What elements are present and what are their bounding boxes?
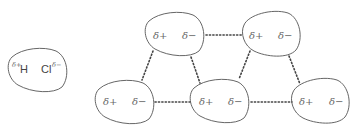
molecule-outline xyxy=(8,48,67,91)
molecule-m3: δ+ δ− xyxy=(95,80,154,123)
negative-pole: δ− xyxy=(182,30,196,41)
negative-pole: δ− xyxy=(228,96,242,107)
positive-pole: δ+ xyxy=(153,30,167,41)
molecule-m4: δ+ δ− xyxy=(190,79,249,122)
molecule-m2: δ+ δ− xyxy=(242,11,300,56)
positive-pole: δ+ xyxy=(249,30,263,41)
hcl-molecule: δ+ H Cl δ− xyxy=(8,48,67,91)
interaction-m1-m3 xyxy=(142,51,153,80)
positive-pole: δ+ xyxy=(299,96,313,107)
positive-pole: δ+ xyxy=(103,96,117,107)
molecule-m1: δ+ δ− xyxy=(145,12,204,55)
interaction-m2-m4 xyxy=(239,51,250,79)
molecule-m5: δ+ δ− xyxy=(291,78,349,123)
cl-charge: δ− xyxy=(52,61,61,69)
negative-pole: δ− xyxy=(132,96,146,107)
cl-atom: Cl xyxy=(41,63,51,75)
h-atom: H xyxy=(20,63,28,75)
dipole-diagram: δ+ H Cl δ− δ+ δ− δ+ δ− δ+ δ− δ+ δ− δ+ δ− xyxy=(0,0,357,130)
positive-pole: δ+ xyxy=(199,96,213,107)
interaction-lines xyxy=(142,35,300,102)
negative-pole: δ− xyxy=(278,30,292,41)
interaction-m2-m5 xyxy=(289,56,300,84)
negative-pole: δ− xyxy=(329,96,343,107)
interaction-m1-m4 xyxy=(191,57,200,83)
